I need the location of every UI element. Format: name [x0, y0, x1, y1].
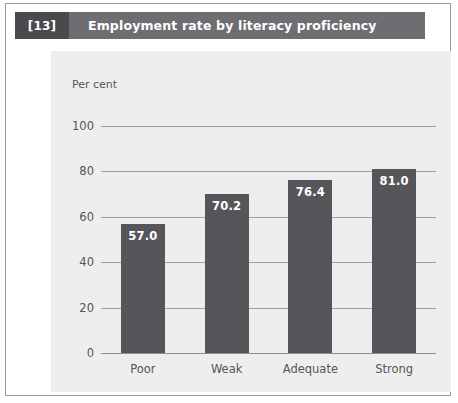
x-axis-category-label: Weak: [185, 362, 269, 376]
x-axis-category-label: Poor: [101, 362, 185, 376]
bar-value-label: 57.0: [121, 229, 165, 243]
bar-value-label: 81.0: [372, 174, 416, 188]
x-axis-category-label: Strong: [352, 362, 436, 376]
bar[interactable]: 57.0: [121, 224, 165, 353]
x-axis-category-label: Adequate: [269, 362, 353, 376]
y-axis-tick-label: 20: [79, 301, 94, 315]
y-axis-unit-label: Per cent: [72, 78, 117, 91]
plot-area: 02040608010057.0Poor70.2Weak76.4Adequate…: [101, 126, 436, 353]
figure-number-label: [13]: [28, 19, 56, 33]
figure-title-bar: [13] Employment rate by literacy profici…: [15, 12, 425, 39]
figure-title: Employment rate by literacy proficiency: [88, 18, 377, 33]
figure-frame: [13] Employment rate by literacy profici…: [5, 3, 451, 396]
y-axis-tick-label: 0: [87, 346, 94, 360]
gridline-0: [101, 353, 436, 354]
figure-number-badge: [13]: [15, 12, 69, 39]
chart-panel: Per cent 02040608010057.0Poor70.2Weak76.…: [51, 51, 451, 392]
y-axis-tick-label: 40: [79, 255, 94, 269]
bar-group: 57.0Poor: [101, 126, 185, 353]
y-axis-tick-label: 60: [79, 210, 94, 224]
bar-group: 81.0Strong: [352, 126, 436, 353]
bar[interactable]: 81.0: [372, 169, 416, 353]
y-axis-tick-label: 100: [72, 119, 94, 133]
bar[interactable]: 70.2: [205, 194, 249, 353]
y-axis-tick-label: 80: [79, 164, 94, 178]
bar-group: 76.4Adequate: [269, 126, 353, 353]
bar-value-label: 70.2: [205, 199, 249, 213]
bar-value-label: 76.4: [288, 185, 332, 199]
bar[interactable]: 76.4: [288, 180, 332, 353]
bar-group: 70.2Weak: [185, 126, 269, 353]
